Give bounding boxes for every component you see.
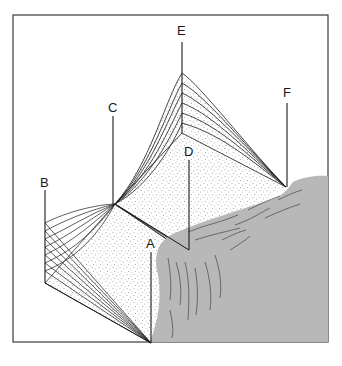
label-c: C <box>108 100 117 115</box>
label-e: E <box>177 23 186 38</box>
diagram-canvas: E F C D B A <box>0 0 342 366</box>
label-d: D <box>184 144 193 159</box>
label-b: B <box>40 175 49 190</box>
label-f: F <box>283 85 291 100</box>
label-a: A <box>146 236 155 251</box>
